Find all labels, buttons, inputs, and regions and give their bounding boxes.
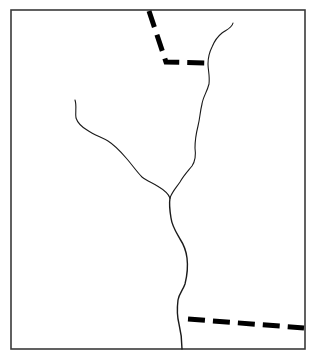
- river-map: [0, 0, 317, 358]
- map-frame: [11, 10, 305, 349]
